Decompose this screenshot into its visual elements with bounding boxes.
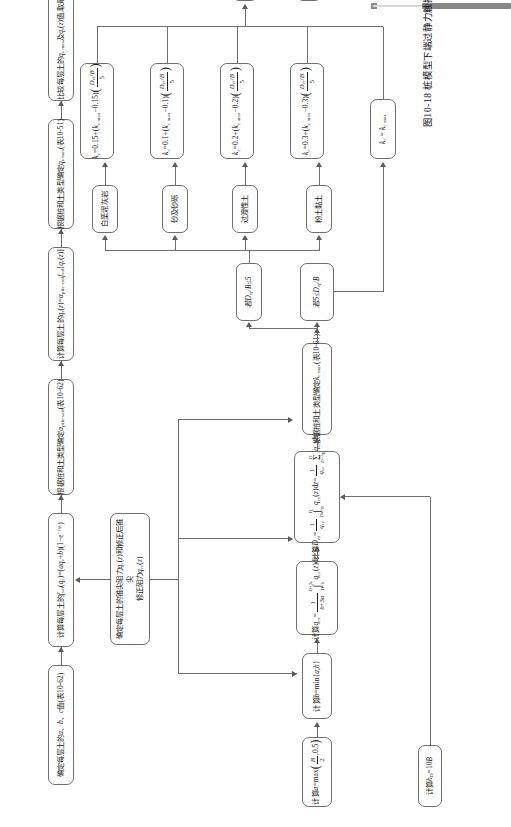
flow-arrow-head	[246, 322, 252, 327]
flow-box-compute-a: 计算a=max(B2,0.5)	[302, 737, 332, 807]
flow-box-compare-qs: 比较每层土的qs max及qs(z)值,取最小值	[48, 0, 74, 101]
rotated-figure-wrapper: 确定每层土的a、b、c值(表10-62) 计算每层土的fsol(qc)=(aqc…	[0, 0, 511, 827]
flow-box-compute-Def: 计算Def=1qceD∫D−hDqcc(z)dz=1qceDΣD−hDqcc,i…	[294, 451, 340, 543]
flow-box-determine-qsmax: 根据桩和土类型确定qs max(表10-51)	[48, 119, 74, 229]
flow-arrow-head	[380, 162, 386, 167]
flow-arrow-head	[75, 577, 80, 583]
flow-arrow-head	[316, 162, 322, 167]
flow-connector-line	[430, 497, 431, 745]
flow-box-text: 粉土黏土	[314, 195, 323, 223]
flow-box-text: 确定每层土的锥尖阻力qc(z)和修正后锥尖修正阻力qcc(z)	[115, 517, 146, 641]
flow-arrow-head	[102, 162, 108, 167]
flow-arrow-line	[105, 165, 106, 185]
flow-arrow-head	[316, 235, 322, 240]
flow-box-decision-5-le-def: 若5≤Def/B	[300, 263, 334, 321]
flow-box-text: kc=0.1+(kc max−0.1)(Def/B5)	[158, 67, 175, 155]
flow-box-text: 计算qce=1b+3aD+3a∫D−bqcc(z)dz	[309, 556, 324, 640]
flow-box-text: 计算hD=10B	[425, 757, 436, 795]
flow-box-kc-silty-clay: kc=0.3+(kc max−0.3)(Def/B5)	[290, 63, 324, 159]
flow-arrow-line	[319, 165, 320, 185]
flow-connector-line	[150, 579, 178, 580]
flow-box-compute-qce: 计算qce=1b+3aD+3a∫D−bqcc(z)dz	[296, 561, 338, 635]
flow-arrow-head	[288, 417, 293, 423]
flow-connector-line	[249, 251, 250, 263]
flow-arrow-head	[172, 235, 178, 240]
flow-arrow-head	[314, 722, 320, 727]
flow-arrow-head	[58, 647, 64, 652]
flow-box-soil-chalk-marl: 白垩泥灰岩	[92, 185, 118, 233]
flow-connector-line	[178, 673, 234, 674]
flow-connector-line	[234, 673, 297, 674]
flow-arrow-head	[340, 494, 345, 500]
flow-box-determine-kcmax: 根据桩和土类型确定kc max(表10-61)	[302, 343, 332, 435]
flow-connector-line	[383, 27, 384, 99]
flow-box-text: 若Def/B≤5	[244, 276, 255, 307]
flow-connector-line	[307, 27, 308, 63]
flow-box-text: 白垩泥灰岩	[100, 191, 109, 227]
flow-arrow-head	[314, 546, 320, 551]
flow-box-kc-transitional: kc=0.2+(kc max−0.2)(Def/B5)	[220, 63, 254, 159]
flow-box-text: 计算每层土的fsol(qc)=(aqc+b)(1−e−cqc)	[56, 522, 67, 638]
flow-arrow-head	[242, 4, 248, 9]
flow-arrow-head	[242, 162, 248, 167]
flow-connector-line	[80, 579, 110, 580]
flow-box-text: 过渡性土	[240, 195, 249, 223]
flow-arrow-head	[58, 361, 64, 366]
flow-connector-line	[249, 328, 317, 329]
flow-box-text: 若5≤Def/B	[312, 276, 323, 307]
flow-arrow-head	[58, 495, 64, 500]
flow-box-soil-silty-clay: 粉土黏土	[306, 185, 332, 233]
flow-box-compute-fsol: 计算每层土的fsol(qc)=(aqc+b)(1−e−cqc)	[48, 513, 74, 647]
flow-arrow-head	[58, 101, 64, 106]
flow-connector-line	[167, 27, 168, 63]
flow-box-text: 根据桩和土类型确定kc max(表10-61)	[312, 334, 323, 444]
flow-arrow-head	[102, 235, 108, 240]
flow-connector-line	[97, 27, 98, 63]
flow-box-soil-transitional: 过渡性土	[232, 185, 258, 233]
flow-box-text: 计算a=max(B2,0.5)	[309, 739, 324, 804]
flow-box-decision-def-le-5: 若Def/B≤5	[236, 263, 262, 321]
flow-box-kc-sand-gravel: kc=0.1+(kc max−0.1)(Def/B5)	[150, 63, 184, 159]
flow-box-compute-b: 计算b=min{a;h}	[302, 653, 332, 719]
flow-box-compute-hD: 计算hD=10B	[418, 745, 442, 807]
flow-arrow-head	[314, 438, 320, 443]
flow-connector-line	[178, 538, 292, 539]
flow-connector-line	[237, 27, 238, 63]
flow-connector-line	[334, 291, 383, 292]
flow-box-text: 比较每层土的qs max及qs(z)值,取最小值	[56, 0, 67, 100]
flow-arrow-head	[58, 229, 64, 234]
flow-box-text: 根据桩和土类型确定qs max(表10-51)	[56, 119, 67, 229]
flow-arrow-head	[242, 235, 248, 240]
flow-box-soil-sand-gravel: 砂及砂砾	[162, 185, 188, 233]
flow-connector-line	[345, 496, 430, 497]
flow-box-determine-qc: 确定每层土的锥尖阻力qc(z)和修正后锥尖修正阻力qcc(z)	[110, 513, 150, 645]
flow-box-text: kc=0.2+(kc max−0.2)(Def/B5)	[228, 67, 245, 155]
flow-box-determine-alpha: 根据桩和土类型确定αpile-soil(表10-62)	[48, 379, 74, 495]
flow-box-text: 砂及砂砾	[170, 195, 179, 223]
flow-box-text: kc = kc max	[378, 114, 389, 144]
figure-caption: 图10-18 桩模型下端过静力触探试验端阻及侧阻图	[420, 0, 434, 127]
flow-arrow-line	[175, 165, 176, 185]
flow-box-compute-qb: 计算qb=kcqce	[232, 0, 258, 1]
flow-arrow-head	[314, 638, 320, 643]
flow-arrow-head	[172, 162, 178, 167]
flow-connector-line	[97, 26, 383, 27]
flow-box-determine-abc: 确定每层土的a、b、c值(表10-62)	[48, 665, 74, 785]
flowchart-canvas: 确定每层土的a、b、c值(表10-62) 计算每层土的fsol(qc)=(aqc…	[0, 0, 511, 827]
flow-box-text: kc=0.3+(kc max−0.3)(Def/B5)	[298, 67, 315, 155]
flow-connector-line	[178, 419, 292, 420]
flow-arrow-head	[314, 322, 320, 327]
flow-box-kc-equals-kcmax: kc = kc max	[370, 99, 396, 159]
flow-connector-line	[105, 250, 319, 251]
flow-connector-line	[245, 7, 246, 27]
flow-box-compute-Rbk: 计算Rb,k=Abqb	[296, 0, 322, 1]
flow-box-text: kc=0.15+(kc max−0.15)(Def/B5)	[88, 63, 105, 159]
flow-arrow-head	[292, 671, 297, 677]
flow-box-text: 计算每层土的qs(z)=αpile-soilfsol[qc(z)]	[56, 249, 67, 359]
flow-box-text: 计算b=min{a;h}	[312, 660, 321, 711]
flow-arrow-head	[288, 536, 293, 542]
flow-box-text: 确定每层土的a、b、c值(表10-62)	[56, 673, 65, 778]
flow-box-text: 根据桩和土类型确定αpile-soil(表10-62)	[56, 379, 67, 494]
flow-connector-line	[383, 165, 384, 292]
flow-box-compute-qs: 计算每层土的qs(z)=αpile-soilfsol[qc(z)]	[48, 247, 74, 361]
